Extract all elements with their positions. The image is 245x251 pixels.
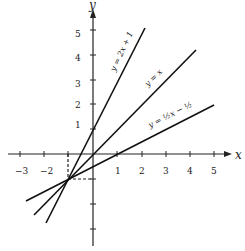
y-tick-label: 3 [75,79,81,89]
y-tick-label: 4 [75,53,81,63]
x-tick-label: 5 [211,166,217,176]
graph: x y −3 −2 1 2 3 4 5 5 4 3 2 1 [0,0,245,251]
y-axis-label: y [88,0,96,12]
label-line-half-x-minus-half: y = ½x − ½ [146,100,194,130]
x-tick-label: −3 [15,166,29,176]
line-y-2x-plus-1 [46,28,145,223]
x-axis-arrow-icon [224,151,232,157]
line-y-x [34,50,196,215]
x-tick-label: −2 [40,166,53,176]
label-line-2x-plus-1: y = 2x + 1 [108,30,135,73]
y-tick-label: 1 [75,120,81,130]
x-axis-label: x [235,148,242,162]
x-tick-label: 1 [115,166,121,176]
line-y-half-x-minus-half [26,105,214,201]
y-tick-label: 5 [75,29,81,39]
x-tick-label: 3 [163,166,169,176]
x-tick-label: 4 [187,166,193,176]
y-tick-label: 2 [75,100,81,110]
x-tick-label: 2 [139,166,145,176]
